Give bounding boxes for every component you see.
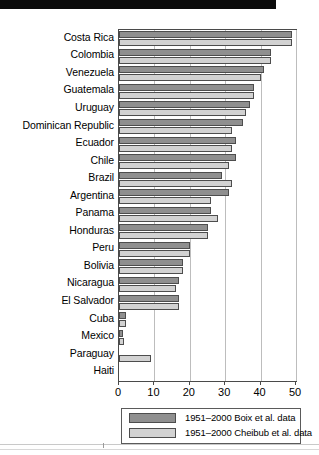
category-label: Chile — [0, 155, 114, 166]
bar-row — [119, 83, 296, 101]
bar-boix — [119, 137, 236, 144]
bar-cheibub — [119, 267, 183, 274]
bar-cheibub — [119, 232, 208, 239]
category-label: Cuba — [0, 313, 114, 324]
x-axis-tick — [295, 381, 296, 385]
category-label: Mexico — [0, 330, 114, 341]
bar-boix — [119, 224, 208, 231]
bar-cheibub — [119, 74, 261, 81]
bar-row — [119, 30, 296, 48]
x-axis-tick — [153, 381, 154, 385]
scan-artifact-tick — [103, 443, 104, 448]
bar-row — [119, 258, 296, 276]
bar-row — [119, 118, 296, 136]
bar-cheibub — [119, 338, 124, 345]
bar-boix — [119, 259, 183, 266]
bar-rows — [119, 30, 296, 381]
category-axis-labels: Costa RicaColombiaVenezuelaGuatemalaUrug… — [0, 29, 114, 380]
category-label: El Salvador — [0, 295, 114, 306]
bar-row — [119, 153, 296, 171]
bar-boix — [119, 66, 264, 73]
bar-cheibub — [119, 39, 292, 46]
bar-row — [119, 135, 296, 153]
bar-row — [119, 363, 296, 381]
category-label: Guatemala — [0, 84, 114, 95]
x-axis-label: 40 — [246, 386, 274, 398]
bar-row — [119, 276, 296, 294]
scan-artifact-rule-bottom — [0, 449, 319, 450]
bar-boix — [119, 312, 126, 319]
plot-area — [118, 29, 297, 382]
democracy-years-bar-chart: Costa RicaColombiaVenezuelaGuatemalaUrug… — [0, 9, 319, 455]
category-label: Paraguay — [0, 348, 114, 359]
x-axis-label: 20 — [175, 386, 203, 398]
bar-cheibub — [119, 250, 190, 257]
x-axis-label: 50 — [281, 386, 309, 398]
bar-boix — [119, 242, 190, 249]
bar-boix — [119, 330, 123, 337]
category-label: Peru — [0, 242, 114, 253]
chart-legend: 1951–2000 Boix et al. data 1951–2000 Che… — [121, 408, 301, 444]
category-label: Bolivia — [0, 260, 114, 271]
bar-boix — [119, 207, 211, 214]
legend-label-cheibub: 1951–2000 Cheibub et al. data — [185, 428, 312, 438]
scan-artifact-band-gap — [276, 0, 319, 9]
legend-item-cheibub: 1951–2000 Cheibub et al. data — [129, 428, 312, 438]
x-axis-tick — [224, 381, 225, 385]
bar-row — [119, 241, 296, 259]
scan-artifact-band — [0, 0, 319, 9]
bar-cheibub — [119, 127, 232, 134]
category-label: Haiti — [0, 365, 114, 376]
bar-cheibub — [119, 320, 126, 327]
bar-cheibub — [119, 303, 179, 310]
category-label: Colombia — [0, 49, 114, 60]
category-label: Venezuela — [0, 67, 114, 78]
bar-boix — [119, 84, 254, 91]
category-label: Uruguay — [0, 102, 114, 113]
bar-boix — [119, 154, 236, 161]
bar-boix — [119, 277, 179, 284]
bar-boix — [119, 189, 229, 196]
category-label: Brazil — [0, 172, 114, 183]
bar-row — [119, 188, 296, 206]
gridline-50 — [296, 30, 297, 381]
bar-cheibub — [119, 109, 246, 116]
legend-label-boix: 1951–2000 Boix et al. data — [185, 413, 295, 423]
bar-boix — [119, 172, 222, 179]
bar-row — [119, 206, 296, 224]
x-axis-tick — [189, 381, 190, 385]
legend-item-boix: 1951–2000 Boix et al. data — [129, 413, 295, 423]
bar-row — [119, 328, 296, 346]
bar-boix — [119, 119, 243, 126]
bar-boix — [119, 31, 292, 38]
bar-cheibub — [119, 145, 232, 152]
category-label: Ecuador — [0, 137, 114, 148]
x-axis-label: 10 — [139, 386, 167, 398]
bar-cheibub — [119, 57, 271, 64]
x-axis-tick — [118, 381, 119, 385]
bar-boix — [119, 295, 179, 302]
scan-artifact-rule-top — [0, 444, 319, 445]
bar-cheibub — [119, 355, 151, 362]
category-label: Honduras — [0, 225, 114, 236]
bar-boix — [119, 49, 271, 56]
bar-cheibub — [119, 197, 211, 204]
x-axis-tick — [260, 381, 261, 385]
bar-cheibub — [119, 92, 254, 99]
category-label: Dominican Republic — [0, 120, 114, 131]
bar-row — [119, 311, 296, 329]
bar-boix — [119, 101, 250, 108]
bar-row — [119, 100, 296, 118]
bar-row — [119, 48, 296, 66]
bar-row — [119, 65, 296, 83]
bar-cheibub — [119, 180, 232, 187]
bar-row — [119, 293, 296, 311]
legend-swatch-cheibub — [129, 428, 176, 438]
bar-row — [119, 170, 296, 188]
legend-swatch-boix — [129, 413, 176, 423]
category-label: Panama — [0, 207, 114, 218]
category-label: Costa Rica — [0, 32, 114, 43]
category-label: Argentina — [0, 190, 114, 201]
bar-cheibub — [119, 215, 218, 222]
bar-row — [119, 346, 296, 364]
